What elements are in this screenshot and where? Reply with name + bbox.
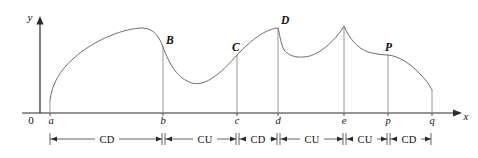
x-tick-label-c: c bbox=[235, 115, 240, 126]
interval-bar-a-b: CD bbox=[50, 133, 162, 145]
curve-point-label-D: D bbox=[280, 14, 290, 26]
x-tick-label-d: d bbox=[275, 115, 281, 126]
interval-arrowhead-e-right bbox=[347, 137, 353, 142]
interval-bar-d-e: CU bbox=[280, 133, 343, 145]
curve-point-label-B: B bbox=[165, 34, 174, 46]
interval-label-c-d: CD bbox=[251, 134, 266, 145]
interval-label-e-p: CU bbox=[358, 134, 373, 145]
interval-arrowhead-a bbox=[51, 137, 57, 142]
interval-bar-e-p: CU bbox=[346, 133, 387, 145]
concavity-figure: y x 0 B C D P bbox=[0, 0, 478, 158]
y-axis-label: y bbox=[27, 11, 33, 23]
interval-arrowhead-c-right bbox=[240, 137, 246, 142]
function-curve bbox=[50, 26, 432, 100]
x-tick-label-a: a bbox=[48, 115, 53, 126]
interval-arrowhead-c-left bbox=[230, 137, 236, 142]
curve-point-label-C: C bbox=[232, 41, 240, 53]
interval-arrowhead-d-right bbox=[281, 137, 287, 142]
x-tick-label-p: p bbox=[384, 115, 390, 126]
interval-label-p-q: CD bbox=[402, 134, 417, 145]
interval-label-a-b: CD bbox=[100, 134, 115, 145]
x-tick-label-q: q bbox=[429, 115, 434, 126]
x-tick-label-e: e bbox=[342, 115, 347, 126]
interval-arrowhead-e-left bbox=[337, 137, 343, 142]
interval-bar-b-c: CU bbox=[165, 133, 236, 145]
interval-arrowhead-b-right bbox=[166, 137, 172, 142]
origin-label: 0 bbox=[28, 114, 34, 126]
interval-label-b-c: CU bbox=[198, 134, 213, 145]
interval-arrowhead-d-left bbox=[271, 137, 277, 142]
drop-lines-group bbox=[50, 26, 432, 113]
concavity-annotation-row: CD CU CD bbox=[50, 133, 431, 145]
interval-arrowhead-p-left bbox=[381, 137, 387, 142]
curve-point-label-P: P bbox=[385, 41, 393, 53]
interval-arrowhead-q-left bbox=[425, 137, 431, 142]
x-axis-arrowhead bbox=[453, 109, 462, 116]
y-axis-arrowhead bbox=[36, 16, 43, 25]
figure-svg: y x 0 B C D P bbox=[0, 0, 478, 158]
interval-bar-p-q: CD bbox=[390, 133, 431, 145]
axes-group bbox=[22, 16, 462, 117]
x-tick-label-b: b bbox=[160, 115, 165, 126]
interval-bar-c-d: CD bbox=[239, 133, 277, 145]
x-axis-label: x bbox=[463, 110, 469, 122]
interval-arrowhead-b-left bbox=[156, 137, 162, 142]
interval-arrowhead-p-right bbox=[391, 137, 397, 142]
interval-label-d-e: CU bbox=[305, 134, 320, 145]
